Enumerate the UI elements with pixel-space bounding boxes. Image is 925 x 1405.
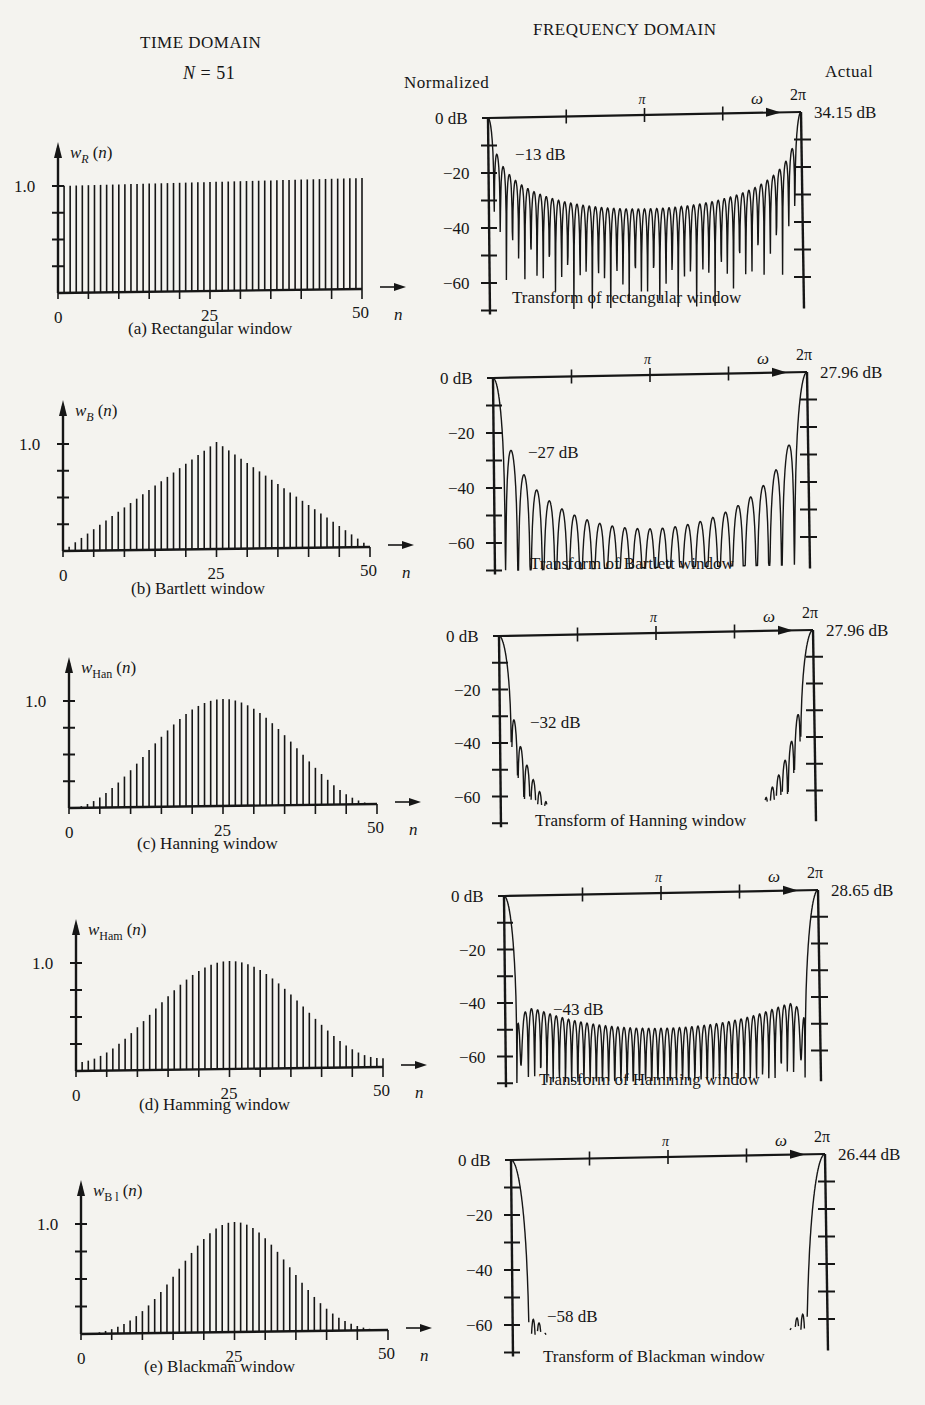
- svg-text:−20: −20: [466, 1206, 493, 1225]
- svg-text:−40: −40: [454, 734, 481, 753]
- time-caption-rectangular: (a) Rectangular window: [128, 319, 292, 339]
- svg-text:n: n: [409, 820, 418, 839]
- svg-text:−13 dB: −13 dB: [515, 145, 566, 164]
- svg-text:0: 0: [72, 1086, 81, 1105]
- svg-text:π: π: [644, 352, 652, 367]
- actual-label: Actual: [825, 62, 873, 82]
- svg-text:−40: −40: [448, 479, 475, 498]
- time-plot-rectangular: 1.002550nwR(n): [0, 0, 925, 1405]
- svg-text:27.96 dB: 27.96 dB: [826, 621, 888, 640]
- svg-text:0: 0: [77, 1349, 86, 1368]
- svg-text:0 dB: 0 dB: [458, 1151, 491, 1170]
- time-caption-bartlett: (b) Bartlett window: [131, 579, 265, 599]
- svg-text:0 dB: 0 dB: [435, 109, 468, 128]
- svg-text:ω: ω: [751, 89, 763, 108]
- svg-text:−40: −40: [466, 1261, 493, 1280]
- svg-text:28.65 dB: 28.65 dB: [831, 881, 893, 900]
- svg-text:wHam(n): wHam(n): [88, 920, 147, 943]
- svg-text:27.96 dB: 27.96 dB: [820, 363, 882, 382]
- svg-text:−43 dB: −43 dB: [553, 1000, 604, 1019]
- svg-text:2π: 2π: [814, 1128, 830, 1145]
- svg-text:−20: −20: [459, 941, 486, 960]
- frequency-domain-heading: FREQUENCY DOMAIN: [533, 20, 717, 40]
- freq-plot-rectangular: 0 dB−20−40−60πω2π34.15 dB−13 dB: [0, 0, 925, 1405]
- svg-text:34.15 dB: 34.15 dB: [814, 103, 876, 122]
- n-label: N = 51: [183, 63, 235, 84]
- svg-text:0 dB: 0 dB: [440, 369, 473, 388]
- svg-text:1.0: 1.0: [19, 435, 40, 454]
- svg-text:0: 0: [54, 308, 63, 327]
- svg-text:−40: −40: [443, 219, 470, 238]
- freq-caption-bartlett: Transform of Bartlett window: [530, 554, 734, 574]
- svg-text:0: 0: [59, 566, 68, 585]
- svg-text:−60: −60: [443, 274, 470, 293]
- svg-text:0 dB: 0 dB: [446, 627, 479, 646]
- time-caption-hanning: (c) Hanning window: [137, 834, 278, 854]
- svg-text:−20: −20: [454, 681, 481, 700]
- svg-text:1.0: 1.0: [25, 692, 46, 711]
- svg-text:2π: 2π: [802, 604, 818, 621]
- svg-text:50: 50: [352, 303, 369, 322]
- svg-text:50: 50: [378, 1344, 395, 1363]
- svg-text:−60: −60: [448, 534, 475, 553]
- svg-text:ω: ω: [768, 867, 780, 886]
- svg-text:50: 50: [360, 561, 377, 580]
- svg-text:2π: 2π: [796, 346, 812, 363]
- svg-text:2π: 2π: [790, 86, 806, 103]
- svg-text:wB l(n): wB l(n): [93, 1181, 143, 1204]
- svg-text:−27 dB: −27 dB: [528, 443, 579, 462]
- svg-text:n: n: [420, 1346, 429, 1365]
- n-var: N: [183, 63, 196, 83]
- time-caption-hamming: (d) Hamming window: [139, 1095, 290, 1115]
- svg-text:−20: −20: [448, 424, 475, 443]
- freq-caption-hanning: Transform of Hanning window: [535, 811, 746, 831]
- svg-text:wHan(n): wHan(n): [81, 658, 136, 681]
- freq-plot-hamming: 0 dB−20−40−60πω2π28.65 dB−43 dB: [0, 0, 925, 1405]
- svg-text:−60: −60: [454, 788, 481, 807]
- svg-text:50: 50: [373, 1081, 390, 1100]
- time-domain-heading: TIME DOMAIN: [140, 33, 261, 53]
- time-caption-blackman: (e) Blackman window: [144, 1357, 295, 1377]
- svg-text:n: n: [402, 563, 411, 582]
- freq-plot-bartlett: 0 dB−20−40−60πω2π27.96 dB−27 dB: [0, 0, 925, 1405]
- svg-text:−60: −60: [466, 1316, 493, 1335]
- svg-text:−60: −60: [459, 1048, 486, 1067]
- svg-text:ω: ω: [775, 1131, 787, 1150]
- time-plot-hamming: 1.002550nwHam(n): [0, 0, 925, 1405]
- freq-caption-blackman: Transform of Blackman window: [543, 1347, 765, 1367]
- n-value: = 51: [196, 63, 236, 83]
- svg-text:ω: ω: [757, 349, 769, 368]
- svg-text:1.0: 1.0: [37, 1215, 58, 1234]
- time-plot-hanning: 1.002550nwHan(n): [0, 0, 925, 1405]
- svg-text:1.0: 1.0: [32, 954, 53, 973]
- freq-plot-blackman: 0 dB−20−40−60πω2π26.44 dB−58 dB: [0, 0, 925, 1405]
- freq-caption-hamming: Transform of Hamming window: [539, 1070, 760, 1090]
- svg-text:0: 0: [65, 823, 74, 842]
- svg-text:n: n: [415, 1083, 424, 1102]
- svg-text:50: 50: [367, 818, 384, 837]
- svg-text:ω: ω: [763, 607, 775, 626]
- svg-text:wB(n): wB(n): [75, 401, 118, 424]
- svg-text:−32 dB: −32 dB: [530, 713, 581, 732]
- svg-text:26.44 dB: 26.44 dB: [838, 1145, 900, 1164]
- svg-text:π: π: [655, 870, 663, 885]
- svg-text:1.0: 1.0: [14, 177, 35, 196]
- svg-text:−40: −40: [459, 994, 486, 1013]
- svg-text:−58 dB: −58 dB: [547, 1307, 598, 1326]
- svg-text:n: n: [394, 305, 403, 324]
- svg-text:2π: 2π: [807, 864, 823, 881]
- freq-plot-hanning: 0 dB−20−40−60πω2π27.96 dB−32 dB: [0, 0, 925, 1405]
- time-plot-blackman: 1.002550nwB l(n): [0, 0, 925, 1405]
- time-plot-bartlett: 1.002550nwB(n): [0, 0, 925, 1405]
- svg-text:π: π: [650, 610, 658, 625]
- normalized-label: Normalized: [404, 73, 489, 93]
- svg-text:π: π: [662, 1134, 670, 1149]
- svg-text:−20: −20: [443, 164, 470, 183]
- svg-text:wR(n): wR(n): [70, 143, 113, 166]
- freq-caption-rectangular: Transform of rectangular window: [512, 288, 741, 308]
- svg-text:π: π: [639, 92, 647, 107]
- svg-text:0 dB: 0 dB: [451, 887, 484, 906]
